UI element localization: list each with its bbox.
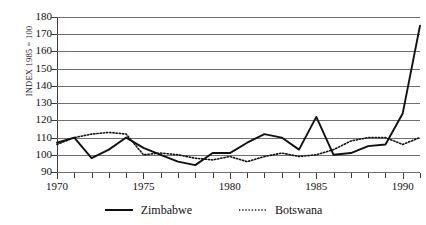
legend-label-zimbabwe: Zimbabwe bbox=[141, 204, 192, 217]
x-axis-tick-mark bbox=[247, 173, 248, 178]
plot-area bbox=[57, 17, 420, 172]
y-axis-tick-label: 110 bbox=[12, 132, 52, 143]
x-axis-tick-label: 1990 bbox=[381, 180, 425, 192]
y-axis-tick-label: 130 bbox=[12, 97, 52, 108]
x-axis-tick-mark bbox=[299, 173, 300, 178]
x-axis-tick-label: 1975 bbox=[121, 180, 165, 192]
x-axis-tick-mark bbox=[403, 173, 404, 179]
x-axis-tick-mark bbox=[143, 173, 144, 179]
x-axis-tick-mark bbox=[230, 173, 231, 179]
x-axis-tick-mark bbox=[92, 173, 93, 178]
solid-line-swatch bbox=[104, 206, 134, 214]
y-axis-tick-label: 150 bbox=[12, 63, 52, 74]
dotted-line-swatch bbox=[238, 206, 268, 214]
legend-item-zimbabwe: Zimbabwe bbox=[104, 204, 192, 217]
x-axis-tick-mark bbox=[57, 173, 58, 179]
gridline bbox=[57, 172, 420, 173]
series-line-zimbabwe bbox=[57, 26, 420, 166]
y-axis-tick-label: 170 bbox=[12, 28, 52, 39]
x-axis-tick-mark bbox=[213, 173, 214, 178]
x-axis-tick-mark bbox=[109, 173, 110, 178]
x-axis-tick-mark bbox=[161, 173, 162, 178]
x-axis-tick-label: 1970 bbox=[35, 180, 79, 192]
x-axis-tick-mark bbox=[385, 173, 386, 178]
y-axis-tick-label: 160 bbox=[12, 45, 52, 56]
y-axis-tick-label: 120 bbox=[12, 114, 52, 125]
y-axis-tick-label: 100 bbox=[12, 149, 52, 160]
x-axis-tick-mark bbox=[368, 173, 369, 178]
x-axis-tick-mark bbox=[74, 173, 75, 178]
x-axis-tick-mark bbox=[264, 173, 265, 178]
y-axis-tick-label: 140 bbox=[12, 80, 52, 91]
x-axis-tick-mark bbox=[178, 173, 179, 178]
x-axis-tick-mark bbox=[334, 173, 335, 178]
legend-item-botswana: Botswana bbox=[238, 204, 322, 217]
x-axis-tick-mark bbox=[351, 173, 352, 178]
x-axis-tick-label: 1985 bbox=[294, 180, 338, 192]
series-layer bbox=[57, 17, 420, 172]
legend-label-botswana: Botswana bbox=[275, 204, 322, 217]
y-axis-tick-label: 180 bbox=[12, 11, 52, 22]
x-axis-tick-label: 1980 bbox=[208, 180, 252, 192]
x-axis-tick-mark bbox=[195, 173, 196, 178]
x-axis-tick-mark bbox=[126, 173, 127, 178]
y-axis-tick-label: 90 bbox=[12, 166, 52, 177]
x-axis-tick-mark bbox=[282, 173, 283, 178]
x-axis-tick-mark bbox=[420, 173, 421, 178]
x-axis-tick-mark bbox=[316, 173, 317, 179]
chart-legend: Zimbabwe Botswana bbox=[0, 200, 426, 220]
chart-figure: INDEX 1985 = 100 90100110120130140150160… bbox=[0, 0, 426, 225]
